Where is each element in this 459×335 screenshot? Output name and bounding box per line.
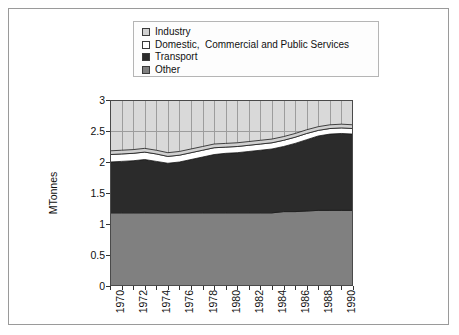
legend-swatch-icon [142, 53, 150, 61]
legend-swatch-icon [142, 41, 150, 49]
y-tick-label: 1 [99, 218, 105, 230]
x-tick-mark [307, 286, 308, 290]
y-tick-label: 2 [99, 156, 105, 168]
plot-area [110, 100, 353, 286]
x-tick-mark [237, 286, 238, 290]
legend-label: Other [155, 64, 180, 77]
x-tick-mark [110, 286, 111, 290]
x-tick-mark [272, 286, 273, 290]
x-tick-mark [191, 286, 192, 290]
x-tick-mark [341, 286, 342, 290]
x-tick-mark [168, 286, 169, 290]
legend-item-0: Industry [142, 26, 378, 39]
y-axis-title: MTonnes [47, 172, 59, 215]
y-axis-ticks: 00.511.522.53 [67, 9, 105, 335]
x-tick-mark [330, 286, 331, 290]
x-tick-mark [145, 286, 146, 290]
legend-swatch-icon [142, 28, 150, 36]
x-tick-mark [284, 286, 285, 290]
y-tick-label: 0.5 [90, 249, 105, 261]
legend-item-3: Other [142, 64, 378, 77]
x-tick-mark [156, 286, 157, 290]
x-tick-mark [318, 286, 319, 290]
y-tick-label: 2.5 [90, 125, 105, 137]
y-tick-mark [106, 224, 110, 225]
x-tick-label: 1990 [345, 290, 357, 313]
x-tick-label: 1982 [253, 290, 265, 313]
x-tick-mark [179, 286, 180, 290]
area-band [110, 210, 353, 286]
x-tick-mark [260, 286, 261, 290]
x-tick-label: 1972 [137, 290, 149, 313]
x-tick-label: 1980 [230, 290, 242, 313]
x-tick-mark [122, 286, 123, 290]
x-tick-mark [226, 286, 227, 290]
x-tick-mark [353, 286, 354, 290]
figure-frame: IndustryDomestic, Commercial and Public … [8, 8, 449, 325]
x-tick-label: 1988 [322, 290, 334, 313]
legend-item-2: Transport [142, 51, 378, 64]
legend-label: Industry [155, 26, 191, 39]
legend-label: Domestic, Commercial and Public Services [155, 39, 349, 52]
y-tick-mark [106, 162, 110, 163]
x-tick-label: 1974 [160, 290, 172, 313]
x-tick-label: 1984 [276, 290, 288, 313]
y-tick-mark [106, 255, 110, 256]
legend-item-1: Domestic, Commercial and Public Services [142, 39, 378, 52]
x-tick-label: 1970 [114, 290, 126, 313]
x-tick-label: 1976 [183, 290, 195, 313]
x-tick-mark [295, 286, 296, 290]
stacked-area-series [110, 100, 353, 286]
chart-legend: IndustryDomestic, Commercial and Public … [133, 21, 379, 77]
x-tick-mark [249, 286, 250, 290]
x-tick-mark [133, 286, 134, 290]
y-tick-mark [106, 193, 110, 194]
legend-swatch-icon [142, 66, 150, 74]
y-tick-label: 0 [99, 280, 105, 292]
y-tick-mark [106, 131, 110, 132]
y-tick-mark [106, 100, 110, 101]
x-tick-mark [203, 286, 204, 290]
x-tick-label: 1978 [207, 290, 219, 313]
legend-label: Transport [155, 51, 197, 64]
x-tick-mark [214, 286, 215, 290]
y-tick-label: 1.5 [90, 187, 105, 199]
x-tick-label: 1986 [299, 290, 311, 313]
y-tick-label: 3 [99, 94, 105, 106]
